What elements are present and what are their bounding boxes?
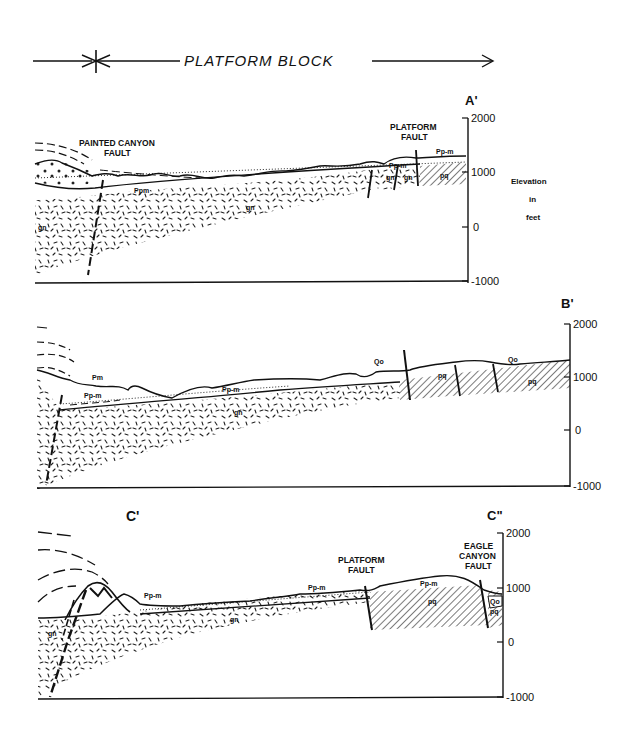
tick-0: 0 bbox=[575, 424, 581, 436]
tick-1000: 1000 bbox=[506, 582, 530, 594]
unit-label: Qo bbox=[508, 356, 518, 364]
section-b-end-label: B' bbox=[561, 296, 573, 311]
unit-label: gn bbox=[404, 174, 413, 182]
unit-label: Pp-m bbox=[84, 392, 102, 400]
elevation-axis-title-3: feet bbox=[526, 213, 541, 222]
cross-section-diagram: PLATFORM BLOCK A' PAINTED CANYO bbox=[0, 0, 632, 739]
section-c-end-label: C" bbox=[487, 508, 503, 523]
tick-1000: 1000 bbox=[573, 371, 597, 383]
unit-label: pq bbox=[528, 378, 537, 386]
tick-neg1000: -1000 bbox=[471, 275, 499, 287]
unit-label: Qo bbox=[490, 598, 500, 606]
unit-label: gn bbox=[386, 174, 395, 182]
section-b bbox=[37, 324, 570, 490]
eagle-canyon-fault-label-3: FAULT bbox=[465, 561, 493, 571]
unit-label: pq bbox=[428, 598, 437, 606]
eagle-canyon-fault-label-2: CANYON bbox=[459, 551, 496, 561]
unit-label: Pp-m bbox=[389, 162, 407, 170]
section-c-start-label: C' bbox=[126, 508, 139, 524]
tick-0: 0 bbox=[508, 636, 514, 648]
unit-label: pq bbox=[438, 372, 447, 380]
platform-fault-label: PLATFORM bbox=[390, 122, 437, 132]
tick-0: 0 bbox=[473, 221, 479, 233]
unit-label: Ppm bbox=[134, 187, 149, 195]
unit-label: pq bbox=[490, 608, 499, 616]
unit-label: gn bbox=[246, 204, 255, 212]
painted-canyon-fault-label-2: FAULT bbox=[104, 148, 132, 158]
unit-label: Qo bbox=[374, 358, 384, 366]
unit-label: Pm bbox=[92, 374, 103, 381]
unit-label: gn bbox=[230, 616, 239, 624]
unit-label: gn bbox=[38, 224, 47, 232]
tick-2000: 2000 bbox=[506, 527, 530, 539]
unit-label: gn bbox=[48, 630, 57, 638]
unit-label: Pp-m bbox=[436, 148, 454, 156]
section-c bbox=[38, 532, 503, 699]
unit-label: Pp-m bbox=[420, 580, 438, 588]
platform-fault-label-c-2: FAULT bbox=[348, 565, 376, 575]
painted-canyon-fault-label: PAINTED CANYON bbox=[79, 138, 155, 148]
platform-block-label: PLATFORM BLOCK bbox=[184, 52, 334, 69]
tick-neg1000: -1000 bbox=[573, 480, 601, 492]
tick-neg1000: -1000 bbox=[506, 691, 534, 703]
unit-label: pq bbox=[440, 172, 449, 180]
elevation-axis-title-2: in bbox=[529, 195, 536, 204]
unit-label: gn bbox=[234, 409, 243, 417]
platform-fault-label-2: FAULT bbox=[401, 132, 429, 142]
section-a-end-label: A' bbox=[465, 93, 477, 108]
tick-1000: 1000 bbox=[471, 166, 495, 178]
eagle-canyon-fault-label: EAGLE bbox=[464, 541, 494, 551]
tick-2000: 2000 bbox=[573, 318, 597, 330]
elevation-axis-title: Elevation bbox=[511, 177, 547, 186]
platform-fault-label-c: PLATFORM bbox=[338, 555, 385, 565]
unit-label: Pp-m bbox=[222, 386, 240, 394]
unit-label: Pp-m bbox=[308, 584, 326, 592]
unit-label: Pp-m bbox=[144, 592, 162, 600]
tick-2000: 2000 bbox=[471, 112, 495, 124]
